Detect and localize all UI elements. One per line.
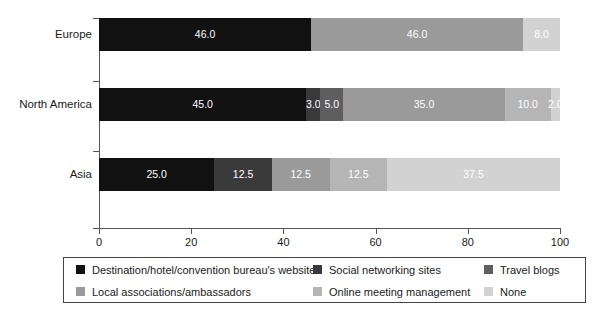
x-axis-tick <box>376 228 377 234</box>
legend-swatch-icon <box>313 265 322 274</box>
bar-segment: 12.5 <box>330 158 388 191</box>
bar-segment: 8.0 <box>523 18 560 51</box>
legend-row: Local associations/ambassadorsOnline mee… <box>64 280 585 303</box>
bar-segment-value-label: 2.0 <box>548 99 563 110</box>
legend-label: Local associations/ambassadors <box>92 286 251 298</box>
bar-segment: 45.0 <box>99 88 306 121</box>
legend-swatch-icon <box>484 287 493 296</box>
bar-segment: 5.0 <box>320 88 343 121</box>
legend-swatch-icon <box>484 265 493 274</box>
legend-label: Travel blogs <box>500 264 560 276</box>
bar-segment: 3.0 <box>306 88 320 121</box>
x-axis-tick <box>468 228 469 234</box>
legend-label: None <box>500 286 526 298</box>
bar-segment: 46.0 <box>311 18 523 51</box>
legend-label: Destination/hotel/convention bureau's we… <box>92 264 315 276</box>
x-axis-tick <box>560 228 561 234</box>
x-axis-tick-label: 60 <box>369 236 381 248</box>
legend-item[interactable]: None <box>484 280 526 303</box>
x-axis-tick-label: 80 <box>462 236 474 248</box>
bar-segment-value-label: 37.5 <box>463 169 483 180</box>
bar-row: 46.046.08.0 <box>99 18 560 51</box>
legend-swatch-icon <box>76 265 85 274</box>
x-axis-tick <box>99 228 100 234</box>
legend-label: Online meeting management <box>329 286 470 298</box>
x-axis-tick <box>191 228 192 234</box>
legend-item[interactable]: Destination/hotel/convention bureau's we… <box>76 258 315 281</box>
bar-segment-value-label: 12.5 <box>233 169 253 180</box>
chart-legend: Destination/hotel/convention bureau's we… <box>63 257 586 303</box>
bar-segment-value-label: 10.0 <box>518 99 538 110</box>
bar-segment-value-label: 45.0 <box>193 99 213 110</box>
legend-item[interactable]: Local associations/ambassadors <box>76 280 251 303</box>
legend-swatch-icon <box>313 287 322 296</box>
bar-segment: 2.0 <box>551 88 560 121</box>
bar-segment: 10.0 <box>505 88 551 121</box>
bar-segment-value-label: 12.5 <box>290 169 310 180</box>
bar-segment: 12.5 <box>214 158 272 191</box>
bar-segment: 37.5 <box>387 158 560 191</box>
bar-segment-value-label: 3.0 <box>306 99 321 110</box>
y-axis-label-asia: Asia <box>0 168 92 180</box>
bar-segment-value-label: 8.0 <box>534 29 549 40</box>
bar-segment: 12.5 <box>272 158 330 191</box>
bar-segment: 46.0 <box>99 18 311 51</box>
x-axis-tick <box>283 228 284 234</box>
legend-swatch-icon <box>76 287 85 296</box>
x-axis-tick-label: 0 <box>96 236 102 248</box>
bar-segment-value-label: 35.0 <box>414 99 434 110</box>
x-axis-tick-label: 100 <box>551 236 569 248</box>
bar-row: 25.012.512.512.537.5 <box>99 158 560 191</box>
bar-segment-value-label: 25.0 <box>146 169 166 180</box>
y-axis-label-europe: Europe <box>0 28 92 40</box>
x-axis-tick-label: 20 <box>185 236 197 248</box>
legend-item[interactable]: Travel blogs <box>484 258 560 281</box>
stacked-bar-chart: EuropeNorth AmericaAsia 020406080100 46.… <box>0 0 600 250</box>
legend-item[interactable]: Social networking sites <box>313 258 441 281</box>
x-axis-line <box>99 228 561 229</box>
legend-label: Social networking sites <box>329 264 441 276</box>
bar-segment-value-label: 46.0 <box>407 29 427 40</box>
bar-segment: 25.0 <box>99 158 214 191</box>
bar-segment-value-label: 46.0 <box>195 29 215 40</box>
x-axis-tick-label: 40 <box>277 236 289 248</box>
bar-segment-value-label: 12.5 <box>348 169 368 180</box>
legend-item[interactable]: Online meeting management <box>313 280 470 303</box>
bar-row: 45.03.05.035.010.02.0 <box>99 88 560 121</box>
bar-segment-value-label: 5.0 <box>324 99 339 110</box>
y-axis-label-north-america: North America <box>0 98 92 110</box>
bar-segment: 35.0 <box>343 88 504 121</box>
legend-row: Destination/hotel/convention bureau's we… <box>64 258 585 281</box>
plot-area: 46.046.08.045.03.05.035.010.02.025.012.5… <box>99 18 560 228</box>
